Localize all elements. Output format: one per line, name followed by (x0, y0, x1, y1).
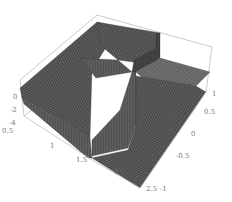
z-tick-0: 0 (13, 93, 17, 101)
z-axis: 0 -2 -4 (9, 93, 17, 127)
y-tick-1: 0.5 (204, 108, 215, 116)
z-tick-2: -4 (9, 119, 16, 127)
x-tick-2: 1.5 (76, 156, 87, 164)
y-tick-4: -1 (160, 185, 167, 193)
y-tick-3: -0.5 (176, 152, 190, 160)
x-tick-1: 1 (50, 142, 54, 150)
x-tick-0: 0.5 (2, 127, 13, 135)
central-cliff (92, 72, 136, 156)
x-tick-4: 2.5 (146, 185, 157, 193)
z-tick-1: -2 (10, 106, 17, 114)
y-tick-0: 1 (212, 90, 216, 98)
surface (20, 22, 210, 188)
surface-plot: 0 -2 -4 0.5 1 1.5 2 2.5 1 0.5 0 -0.5 -1 (0, 0, 232, 202)
x-tick-3: 2 (114, 168, 118, 176)
y-tick-2: 0 (191, 130, 195, 138)
